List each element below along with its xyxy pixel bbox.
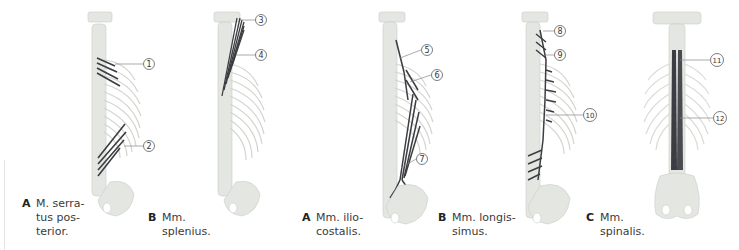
spine-illustration-iliocostalis <box>379 12 433 224</box>
caption-spinalis: C Mm. spinalis. <box>586 211 645 239</box>
svg-text:6: 6 <box>434 71 439 80</box>
callout-2: 2 <box>124 141 155 152</box>
svg-text:7: 7 <box>419 155 424 164</box>
callout-1: 1 <box>115 59 155 70</box>
panel-letter: A <box>22 197 31 211</box>
svg-text:4: 4 <box>258 51 263 60</box>
panel-letter: B <box>438 211 446 225</box>
svg-text:2: 2 <box>146 142 151 151</box>
svg-text:8: 8 <box>557 27 562 36</box>
svg-text:9: 9 <box>557 51 562 60</box>
panel-letter: C <box>586 211 594 225</box>
spine-illustration-serratus <box>88 12 141 216</box>
caption-iliocostalis: A Mm. ilio- costalis. <box>302 211 363 239</box>
callout-9: 9 <box>545 50 566 61</box>
caption-longissimus: B Mm. longis- simus. <box>438 211 516 239</box>
callout-8: 8 <box>543 26 566 37</box>
spine-illustration-longissimus <box>522 12 577 224</box>
caption-serratus-posterior: A M. serra- tus pos- terior. <box>22 197 85 239</box>
svg-text:5: 5 <box>424 46 429 55</box>
svg-text:12: 12 <box>716 115 725 123</box>
caption-text: Mm. splenius. <box>162 211 211 239</box>
panel-letter: B <box>148 211 156 225</box>
caption-splenius: B Mm. splenius. <box>148 211 211 239</box>
callout-5: 5 <box>400 45 433 59</box>
caption-text: Mm. ilio- costalis. <box>316 211 363 239</box>
spine-illustration-spinalis <box>644 12 710 219</box>
svg-text:10: 10 <box>586 112 595 120</box>
spine-illustration-splenius <box>214 12 265 216</box>
caption-text: M. serra- tus pos- terior. <box>36 197 85 239</box>
svg-text:11: 11 <box>713 57 722 65</box>
callout-4: 4 <box>236 50 267 61</box>
caption-text: Mm. longis- simus. <box>452 211 516 239</box>
svg-text:1: 1 <box>146 60 151 69</box>
svg-text:3: 3 <box>258 16 263 25</box>
panel-letter: A <box>302 211 311 225</box>
caption-text: Mm. spinalis. <box>600 211 645 239</box>
